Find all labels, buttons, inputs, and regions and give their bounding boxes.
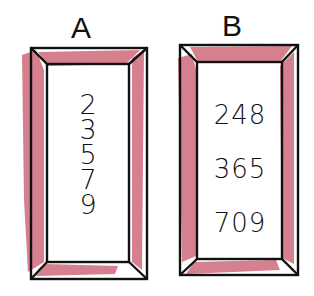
number: 709 [214,196,267,250]
frame-a-label: A [71,13,91,43]
number: 248 [214,88,267,142]
frame-b-label: B [222,11,242,41]
frame-a-numbers: 2 3 5 7 9 [68,92,108,217]
number: 365 [214,142,267,196]
frame-b-numbers: 248 365 709 [200,88,280,250]
number: 9 [79,192,96,217]
